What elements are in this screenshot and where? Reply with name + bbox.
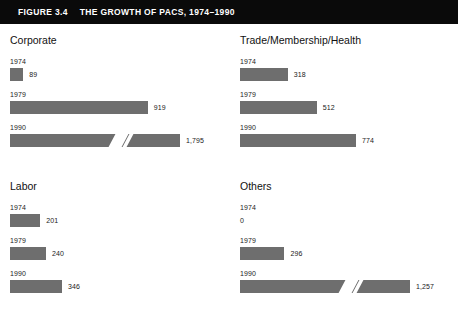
bar-row: 240 (10, 247, 228, 260)
bar-group: 1979240 (10, 236, 228, 260)
bar-row: 1,795 (10, 134, 228, 147)
bar-value-label: 774 (362, 137, 374, 144)
bar-row: 919 (10, 101, 228, 114)
bar (240, 247, 284, 260)
bar-group: 1990346 (10, 269, 228, 293)
figure-title: THE GROWTH OF PACS, 1974–1990 (80, 7, 235, 17)
bar-value-label: 512 (323, 104, 335, 111)
bar-row: 0 (240, 214, 458, 227)
bar-group: 1990774 (240, 123, 458, 147)
bar-group: 19901,795 (10, 123, 228, 147)
panel-title: Labor (10, 180, 228, 192)
bar-group: 1974318 (240, 57, 458, 81)
bar-year-label: 1979 (10, 236, 228, 245)
bar-year-label: 1979 (240, 236, 458, 245)
bar (240, 280, 410, 293)
bar (10, 247, 46, 260)
bar-row: 296 (240, 247, 458, 260)
bar-year-label: 1974 (10, 57, 228, 66)
bar-year-label: 1974 (240, 203, 458, 212)
panel-others: Others19740197929619901,257 (240, 180, 458, 302)
bar-row: 1,257 (240, 280, 458, 293)
panel-corporate: Corporate197489197991919901,795 (10, 34, 228, 156)
bar-group: 1974201 (10, 203, 228, 227)
bar (240, 134, 356, 147)
bar (240, 101, 317, 114)
bar-value-label: 1,795 (186, 137, 204, 144)
figure-header-band: FIGURE 3.4 THE GROWTH OF PACS, 1974–1990 (0, 0, 458, 24)
bar-value-label: 1,257 (416, 283, 434, 290)
figure-container: FIGURE 3.4 THE GROWTH OF PACS, 1974–1990… (0, 0, 458, 321)
bar (10, 214, 40, 227)
panel-title: Corporate (10, 34, 228, 46)
bar-value-label: 919 (154, 104, 166, 111)
bar-group: 19901,257 (240, 269, 458, 293)
bar-year-label: 1979 (10, 90, 228, 99)
bar-year-label: 1974 (240, 57, 458, 66)
panel-title: Trade/Membership/Health (240, 34, 458, 46)
bar-row: 346 (10, 280, 228, 293)
bar (10, 101, 148, 114)
bar-value-label: 240 (52, 250, 64, 257)
bar-value-label: 346 (68, 283, 80, 290)
bar (240, 68, 288, 81)
chart-panels: Corporate197489197991919901,795Trade/Mem… (0, 24, 458, 321)
bar-year-label: 1979 (240, 90, 458, 99)
bar-row: 89 (10, 68, 228, 81)
bar (10, 280, 62, 293)
bar-group: 197489 (10, 57, 228, 81)
bar-row: 774 (240, 134, 458, 147)
bar-group: 1979296 (240, 236, 458, 260)
panel-trade-membership-health: Trade/Membership/Health19743181979512199… (240, 34, 458, 156)
bar-value-label: 296 (290, 250, 302, 257)
bar-year-label: 1990 (10, 269, 228, 278)
bar-group: 1979512 (240, 90, 458, 114)
bar-group: 19740 (240, 203, 458, 227)
bar-row: 512 (240, 101, 458, 114)
panel-title: Others (240, 180, 458, 192)
figure-number-label: FIGURE 3.4 (18, 7, 68, 17)
bar-group: 1979919 (10, 90, 228, 114)
bar-year-label: 1990 (240, 123, 458, 132)
bar (10, 68, 23, 81)
bar-row: 201 (10, 214, 228, 227)
bar-value-label: 201 (46, 217, 58, 224)
bar-value-label: 318 (294, 71, 306, 78)
bar-year-label: 1974 (10, 203, 228, 212)
panel-labor: Labor197420119792401990346 (10, 180, 228, 302)
bar-value-label: 0 (240, 217, 244, 224)
bar (10, 134, 180, 147)
bar-row: 318 (240, 68, 458, 81)
bar-value-label: 89 (29, 71, 37, 78)
